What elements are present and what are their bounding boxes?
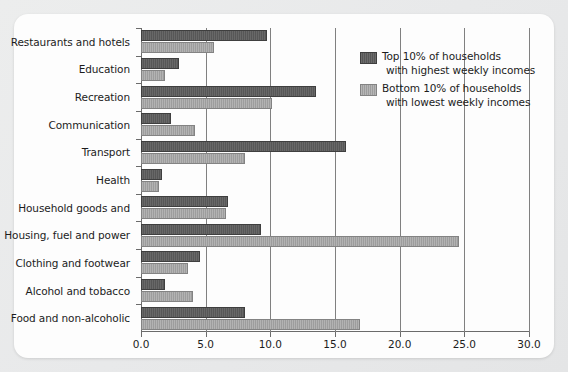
chart-card: Restaurants and hotelsEducationRecreatio… [14,14,554,358]
bar-bottom-decile [141,263,188,274]
x-axis-tick-label: 5.0 [197,338,214,350]
x-axis-tick [206,332,207,337]
legend-label-top: Top 10% of households with highest weekl… [382,50,535,77]
category-label: Alcohol and tobacco [14,277,136,305]
y-axis-tick [136,166,141,167]
bar-top-decile [141,58,179,69]
category-label: Education [14,56,136,84]
category-label: Recreation [14,83,136,111]
x-axis-tick-label: 0.0 [133,338,150,350]
category-label: Communication [14,111,136,139]
y-axis-tick [136,83,141,84]
x-axis-tick-label: 15.0 [323,338,346,350]
legend-label-top-line2: with highest weekly incomes [382,64,535,78]
legend-label-top-line1: Top 10% of households [382,50,501,62]
legend-entry-top: Top 10% of households with highest weekl… [360,50,546,77]
bar-group [141,139,529,167]
category-axis-labels: Restaurants and hotelsEducationRecreatio… [14,28,136,332]
chart-screenshot: Restaurants and hotelsEducationRecreatio… [0,0,568,372]
legend-entry-bottom: Bottom 10% of households with lowest wee… [360,82,546,109]
x-axis-tick-label: 30.0 [517,338,540,350]
x-axis-tick [141,332,142,337]
category-label: Restaurants and hotels [14,28,136,56]
bar-bottom-decile [141,42,214,53]
value-axis-labels: 0.05.010.015.020.025.030.0 [141,332,529,356]
bar-bottom-decile [141,236,459,247]
bar-top-decile [141,251,200,262]
bar-bottom-decile [141,125,195,136]
x-axis-tick [464,332,465,337]
y-axis-tick [136,56,141,57]
bar-top-decile [141,307,245,318]
category-label: Clothing and footwear [14,249,136,277]
x-axis-tick [335,332,336,337]
category-label: Housing, fuel and power [14,221,136,249]
bar-group [141,111,529,139]
y-axis-tick [136,221,141,222]
y-axis-tick [136,249,141,250]
y-axis-tick [136,139,141,140]
x-axis-tick [270,332,271,337]
x-axis-tick-label: 10.0 [259,338,282,350]
y-axis-tick [136,194,141,195]
category-label: Food and non-alcoholic [14,304,136,332]
bar-top-decile [141,279,165,290]
x-axis-tick-label: 20.0 [388,338,411,350]
bar-top-decile [141,169,162,180]
y-axis-tick [136,304,141,305]
bar-top-decile [141,224,261,235]
bar-top-decile [141,30,267,41]
bar-top-decile [141,141,346,152]
bar-top-decile [141,196,228,207]
bar-bottom-decile [141,291,193,302]
y-axis-tick [136,111,141,112]
bar-group [141,277,529,305]
x-axis-tick [400,332,401,337]
bar-group [141,166,529,194]
bar-top-decile [141,113,171,124]
x-axis-tick [529,332,530,337]
y-axis-tick [136,277,141,278]
legend-swatch-bottom-icon [360,84,377,96]
y-axis-tick [136,28,141,29]
category-label: Household goods and [14,194,136,222]
bar-bottom-decile [141,153,245,164]
bar-group [141,221,529,249]
bar-bottom-decile [141,319,360,330]
chart-legend: Top 10% of households with highest weekl… [360,50,546,114]
bar-bottom-decile [141,181,159,192]
x-axis-tick-label: 25.0 [453,338,476,350]
plot-area: Restaurants and hotelsEducationRecreatio… [14,14,554,358]
legend-label-bottom: Bottom 10% of households with lowest wee… [382,82,530,109]
bar-group [141,304,529,332]
category-label: Health [14,166,136,194]
bar-bottom-decile [141,70,165,81]
legend-label-bottom-line1: Bottom 10% of households [382,82,521,94]
bar-bottom-decile [141,98,272,109]
bar-group [141,194,529,222]
bar-group [141,249,529,277]
legend-swatch-top-icon [360,52,377,64]
bar-top-decile [141,86,316,97]
category-label: Transport [14,139,136,167]
bar-bottom-decile [141,208,226,219]
legend-label-bottom-line2: with lowest weekly incomes [382,96,530,110]
